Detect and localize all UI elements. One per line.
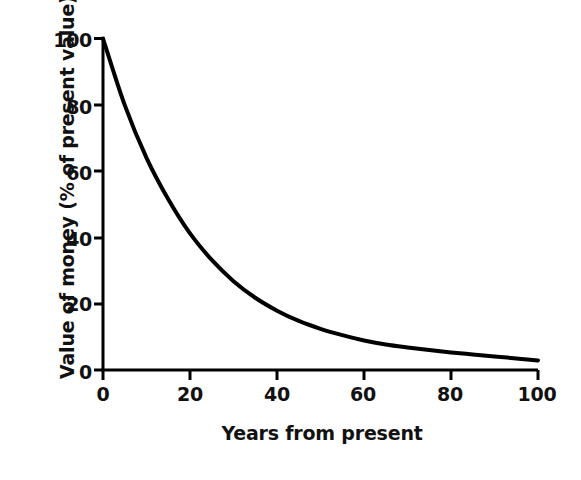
y-tick-label-80: 80 [46, 96, 92, 118]
decay-curve-line [103, 39, 538, 361]
x-tick-label-100: 100 [507, 383, 567, 405]
y-tick-label-100: 100 [46, 29, 92, 51]
y-tick-label-60: 60 [46, 162, 92, 184]
chart-figure: Value of money (% of present value) 100 … [0, 0, 581, 480]
x-tick-label-60: 60 [333, 383, 393, 405]
x-tick-label-0: 0 [73, 383, 133, 405]
y-tick-label-40: 40 [46, 228, 92, 250]
y-axis-title: Value of money (% of present value) [56, 39, 78, 379]
y-tick-label-20: 20 [46, 293, 92, 315]
y-tick-label-0: 0 [46, 361, 92, 383]
x-tick-label-80: 80 [420, 383, 480, 405]
x-axis-title: Years from present [105, 422, 539, 444]
x-tick-label-20: 20 [160, 383, 220, 405]
x-tick-label-40: 40 [247, 383, 307, 405]
